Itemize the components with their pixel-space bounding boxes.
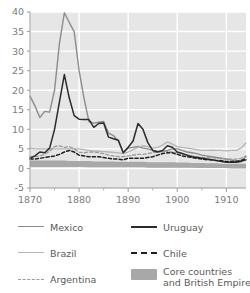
x-tick-label: 1900 [165, 194, 189, 205]
x-tick-label: 1880 [67, 194, 91, 205]
legend-item: Brazil [18, 240, 131, 266]
y-axis-ticks: -50510152025303540 [12, 6, 30, 193]
x-tick-label: 1910 [214, 194, 238, 205]
line-chart: -50510152025303540 18701880189019001910 [0, 0, 250, 215]
legend-swatch-core-countries [131, 269, 157, 280]
legend-swatch-chile [131, 247, 157, 259]
y-tick-label: 10 [12, 124, 24, 135]
y-tick-label: 35 [12, 26, 24, 37]
x-tick-label: 1870 [18, 194, 42, 205]
y-tick-label: 25 [12, 65, 24, 76]
legend-grid: MexicoUruguayBrazilChileArgentinaCore co… [0, 214, 250, 293]
legend-item: Argentina [18, 266, 131, 293]
legend-swatch-uruguay [131, 221, 157, 233]
chart-legend: MexicoUruguayBrazilChileArgentinaCore co… [0, 214, 250, 293]
legend-swatch-argentina [18, 274, 44, 286]
legend-swatch-mexico [18, 221, 44, 233]
legend-label: Uruguay [163, 222, 203, 233]
legend-label: Core countries and British Empire [163, 266, 250, 288]
y-tick-label: 5 [18, 143, 24, 154]
legend-item: Mexico [18, 214, 131, 240]
x-axis-ticks: 18701880189019001910 [18, 188, 239, 205]
y-tick-label: 30 [12, 46, 24, 57]
legend-item: Core countries and British Empire [131, 266, 250, 293]
y-tick-label: 20 [12, 85, 24, 96]
legend-label: Mexico [50, 222, 83, 233]
figure: -50510152025303540 18701880189019001910 … [0, 0, 250, 293]
legend-item: Chile [131, 240, 250, 266]
legend-label: Chile [163, 248, 187, 259]
legend-label: Brazil [50, 248, 77, 259]
legend-item: Uruguay [131, 214, 250, 240]
y-tick-label: 15 [12, 104, 24, 115]
y-tick-label: 40 [12, 6, 24, 17]
x-tick-label: 1890 [116, 194, 140, 205]
y-tick-label: -5 [15, 182, 24, 193]
legend-label: Argentina [50, 274, 96, 285]
y-tick-label: 0 [18, 163, 24, 174]
legend-swatch-brazil [18, 247, 44, 259]
